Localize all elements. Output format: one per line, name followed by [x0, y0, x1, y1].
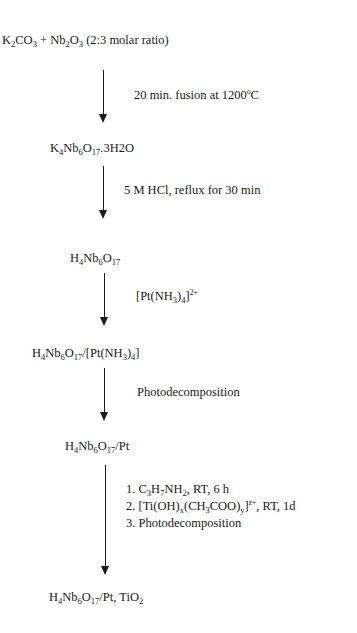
compound-h4nb6o17: H4Nb6O17 [70, 251, 120, 265]
compound-k4nb6o17-hydrate: K4Nb6O17.3H2O [50, 141, 134, 155]
arrow-down-icon [100, 368, 110, 421]
starting-materials: K2CO3 + Nb2O3 (2:3 molar ratio) [2, 33, 169, 47]
condition-pt-complex: [Pt(NH3)4]2+ [136, 289, 198, 303]
final-product: H4Nb6O17/Pt, TiO2 [49, 590, 143, 604]
compound-h4nb6o17-pt-ammine: H4Nb6O17/[Pt(NH3)4] [32, 346, 139, 360]
condition-step-1: 1. C3H7NH2, RT, 6 h [126, 482, 229, 496]
condition-fusion: 20 min. fusion at 1200oC [134, 88, 259, 102]
arrow-down-icon [99, 70, 109, 123]
arrow-down-icon [99, 166, 109, 219]
compound-h4nb6o17-pt: H4Nb6O17/Pt [65, 439, 129, 453]
condition-step-2: 2. [Ti(OH)x(CH3COO)y]z+, RT, 1d [126, 499, 296, 513]
arrow-down-icon [101, 465, 111, 575]
condition-step-3: 3. Photodecomposition [126, 516, 241, 530]
condition-acid-exchange: 5 M HCl, reflux for 30 min [124, 183, 260, 197]
condition-photodecomposition: Photodecomposition [137, 385, 240, 399]
arrow-down-icon [100, 273, 110, 326]
